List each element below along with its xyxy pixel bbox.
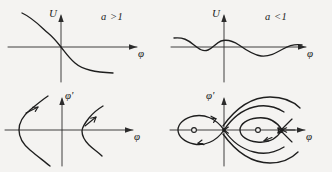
x-axis-arrowhead — [297, 127, 305, 133]
phase-portrait-a-greater-than-1-plot — [0, 86, 166, 172]
center-right-marker — [256, 128, 261, 133]
y-axis-arrowhead — [221, 14, 226, 22]
right-open-orbit — [82, 106, 103, 156]
panel-potential-a-less-than-1: U φ a <1 — [166, 0, 332, 86]
condition-label: a >1 — [101, 12, 123, 23]
y-axis-label: U — [212, 8, 220, 19]
y-axis-label: φ' — [65, 90, 73, 101]
condition-label: a <1 — [265, 12, 287, 23]
panel-potential-a-greater-than-1: U φ a >1 — [0, 0, 166, 86]
left-open-orbit — [19, 96, 50, 166]
x-axis-label: φ — [306, 131, 312, 142]
y-axis-arrowhead — [58, 14, 63, 22]
x-axis-arrowhead — [129, 44, 137, 50]
y-axis-arrowhead — [59, 97, 64, 105]
panel-phase-portrait-a-greater-than-1: φ' φ — [0, 86, 166, 172]
y-axis-label: φ' — [206, 90, 214, 101]
panel-phase-portrait-a-less-than-1: φ' φ — [166, 86, 332, 172]
y-axis-label: U — [49, 8, 57, 19]
x-axis-arrowhead — [125, 127, 133, 133]
potential-a-greater-than-1-plot — [0, 0, 166, 86]
figure-container: U φ a >1 U φ a <1 — [0, 0, 332, 172]
outer-lower-orbit — [223, 134, 298, 163]
y-axis-arrowhead — [221, 97, 226, 105]
left-loop-arrowhead-2 — [198, 140, 202, 144]
x-axis-label: φ — [138, 48, 144, 59]
x-axis-label: φ — [134, 131, 140, 142]
potential-a-less-than-1-plot — [166, 0, 332, 86]
center-left-marker — [192, 128, 197, 133]
outer-upper-orbit — [223, 97, 300, 126]
x-axis-label: φ — [307, 48, 313, 59]
potential-curve — [22, 13, 113, 73]
phase-portrait-a-less-than-1-plot — [166, 86, 332, 172]
